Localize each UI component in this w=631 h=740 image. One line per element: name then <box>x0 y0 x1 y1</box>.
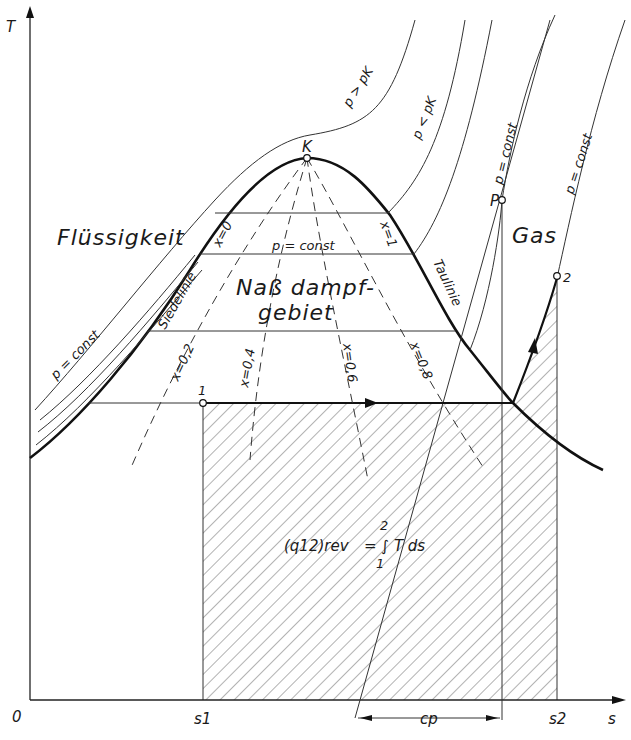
quality-label-08: x=0,8 <box>407 339 436 382</box>
quality-label-02: x=0,2 <box>167 341 198 384</box>
wet-steam-label-1: Naß dampf- <box>236 275 375 300</box>
t-axis-arrow-icon <box>26 6 34 18</box>
quality-label-0: x=0 <box>209 219 235 251</box>
point-1 <box>200 400 207 407</box>
quality-label-06: x=0,6 <box>340 341 360 383</box>
s-axis-label: s <box>608 710 616 728</box>
gas-region-label: Gas <box>512 223 557 248</box>
cp-arrow-right-icon <box>486 715 498 721</box>
liquid-region-label: Flüssigkeit <box>57 225 185 250</box>
isobar-wet-label: p = const <box>271 238 336 253</box>
liquid-isobar-1 <box>40 255 195 420</box>
isobar-gas-2-label: p = const <box>561 131 595 197</box>
s-axis-arrow-icon <box>612 696 626 704</box>
integral-lower-limit: 1 <box>376 556 384 571</box>
point-2 <box>554 273 561 280</box>
isobar-const-mid <box>414 20 492 254</box>
s1-label: s1 <box>194 710 211 728</box>
isobar-liquid-label: p = const <box>47 327 103 383</box>
heat-area-hatch <box>203 278 557 700</box>
wet-steam-label-2: gebiet <box>258 300 334 325</box>
quality-label-1: x=1 <box>377 218 401 249</box>
point-2-label: 2 <box>563 270 571 285</box>
critical-point-label: K <box>302 138 313 156</box>
s2-label: s2 <box>549 710 566 728</box>
heat-integral-rhs: = ∫ T ds <box>364 537 425 555</box>
heat-integral-lhs: (q12)rev <box>284 537 350 555</box>
isobar-above-critical-label: p > pK <box>339 63 376 111</box>
cp-label: cp <box>420 710 438 728</box>
point-p-label: P <box>490 192 500 210</box>
point-1-label: 1 <box>198 383 206 398</box>
dew-line-label: Taulinie <box>430 257 465 309</box>
isobar-below-critical-label: p < pK <box>408 93 439 142</box>
t-axis-label: T <box>6 18 17 36</box>
quality-label-04: x=0,4 <box>236 347 258 389</box>
point-p <box>499 197 506 204</box>
cp-arrow-left-icon <box>360 715 372 721</box>
integral-upper-limit: 2 <box>380 518 388 533</box>
origin-label: 0 <box>12 708 22 726</box>
isobar-gas-1-label: p = const <box>490 120 520 186</box>
liquid-isobar-2 <box>38 262 198 432</box>
t-s-diagram: T s 0 s1 s2 Flüssigkeit Gas Naß dampf- g… <box>0 0 631 740</box>
boiling-line-label: Siedelinie <box>155 269 200 331</box>
